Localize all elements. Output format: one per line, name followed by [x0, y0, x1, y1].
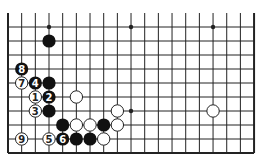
white-stone	[70, 91, 82, 103]
star-point	[47, 25, 51, 29]
black-stone	[97, 118, 110, 131]
move-number: 1	[32, 92, 39, 103]
move-number: 3	[32, 106, 39, 117]
move-number: 8	[18, 64, 25, 75]
black-stone	[42, 104, 55, 117]
move-number: 2	[46, 92, 53, 103]
move-number: 5	[46, 134, 53, 145]
white-stone	[111, 105, 123, 117]
white-stone	[97, 133, 109, 145]
star-point	[211, 25, 215, 29]
white-stone	[70, 119, 82, 131]
move-number: 7	[18, 78, 25, 89]
black-stone	[56, 118, 69, 131]
star-point	[129, 25, 133, 29]
white-stone	[84, 119, 96, 131]
move-number: 9	[18, 134, 25, 145]
star-point	[129, 109, 133, 113]
black-stone	[70, 132, 83, 145]
move-number: 6	[59, 134, 66, 145]
black-stone	[42, 76, 55, 89]
black-stone	[42, 34, 55, 47]
white-stone	[207, 105, 219, 117]
black-stone	[83, 132, 96, 145]
go-board-diagram: 874123956	[0, 0, 260, 161]
move-number: 4	[32, 78, 39, 89]
white-stone	[111, 119, 123, 131]
